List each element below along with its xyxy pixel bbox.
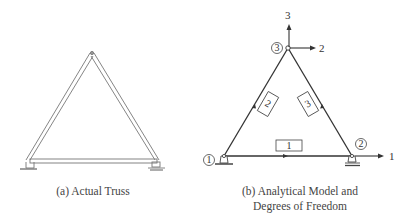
node-2-label: 2	[357, 138, 365, 150]
node-1-label: 1	[205, 154, 213, 166]
element-3-direction-arrow-icon	[320, 104, 324, 109]
dof-3-arrow-icon	[287, 24, 292, 30]
node-3-label: 3	[273, 42, 281, 54]
caption-analytical-model-line2: Degrees of Freedom	[220, 199, 380, 213]
dof-1-label: 1	[389, 150, 395, 162]
dof-2-arrow-icon	[310, 46, 316, 51]
caption-analytical-model-line1: (b) Analytical Model and	[220, 184, 380, 198]
actual-truss	[20, 51, 165, 170]
dof-1-arrow-icon	[378, 154, 384, 159]
caption-actual-truss: (a) Actual Truss	[23, 184, 163, 198]
element-1-direction-arrow-icon	[283, 154, 288, 158]
dof-2-label: 2	[319, 42, 325, 54]
element-1-label: 1	[285, 140, 293, 152]
dof-3-label: 3	[285, 9, 291, 21]
